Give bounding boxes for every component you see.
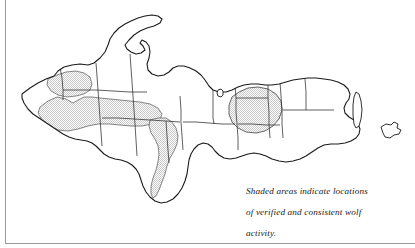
caption-line-2: of verified and consistent wolf xyxy=(246,207,388,218)
island-drummond-island xyxy=(381,122,401,138)
county-line-14 xyxy=(305,79,306,110)
caption-line-1: Shaded areas indicate locations xyxy=(246,186,388,197)
caption-line-3: activity. xyxy=(246,228,388,239)
county-line-7 xyxy=(183,122,235,124)
county-line-6 xyxy=(180,96,183,150)
county-line-8 xyxy=(213,90,214,124)
figure-page: Shaded areas indicate locations of verif… xyxy=(0,0,415,248)
shaded-region-gogebic-ontonagon-north xyxy=(47,71,92,97)
shaded-region-dickinson-menominee-strip xyxy=(149,118,178,198)
island-grand-island xyxy=(217,89,223,97)
island-sugar-island xyxy=(353,92,362,128)
map-caption: Shaded areas indicate locations of verif… xyxy=(246,175,388,248)
